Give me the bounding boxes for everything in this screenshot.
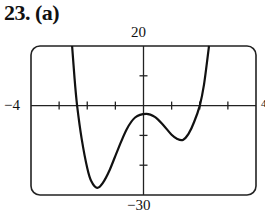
function-curve (72, 46, 209, 188)
axes (31, 46, 256, 195)
plot-area (0, 0, 265, 214)
